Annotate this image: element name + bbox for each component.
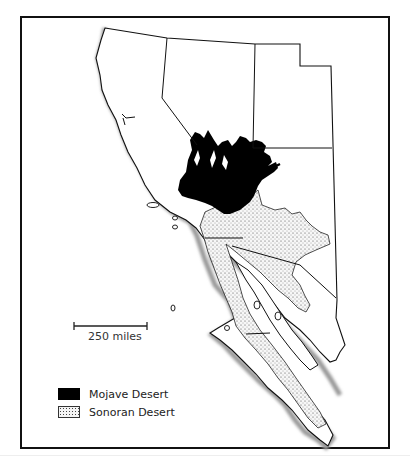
legend-label-mojave: Mojave Desert xyxy=(89,388,168,401)
legend: Mojave Desert Sonoran Desert xyxy=(58,385,175,421)
legend-item-sonoran: Sonoran Desert xyxy=(58,403,175,421)
legend-label-sonoran: Sonoran Desert xyxy=(89,406,175,419)
sonoran-swatch-icon xyxy=(58,406,80,418)
page-divider xyxy=(0,455,410,456)
scale-bar-label: 250 miles xyxy=(88,330,142,343)
scale-bar xyxy=(74,322,147,330)
mojave-swatch-icon xyxy=(58,388,80,400)
legend-item-mojave: Mojave Desert xyxy=(58,385,175,403)
